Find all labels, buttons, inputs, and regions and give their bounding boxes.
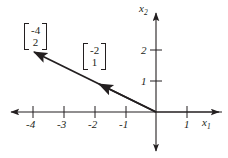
x-axis-label-subscript: 1 (207, 122, 211, 131)
vector-long-top-entry: -4 (31, 24, 40, 36)
x-tick-label--2: -2 (88, 119, 97, 130)
bracket-right-long (42, 23, 47, 50)
vector-label-long: -4 2 (24, 23, 47, 50)
x-tick-label--1: -1 (119, 119, 128, 130)
vector-short-bottom-entry: 1 (92, 56, 98, 68)
y-tick-label-1: 1 (141, 76, 147, 87)
vector-figure: -4 -3 -2 -1 1 2 1 x1 x2 -4 2 -2 1 (0, 0, 228, 158)
x-tick-label--4: -4 (26, 119, 35, 130)
vector-entries-long: -4 2 (29, 23, 42, 50)
bracket-right-short (101, 43, 106, 70)
vector-label-short: -2 1 (83, 43, 106, 70)
y-axis-label-subscript: 2 (144, 8, 148, 17)
x-axis (11, 106, 222, 118)
vector-short-top-entry: -2 (90, 44, 99, 56)
y-tick-label-2: 2 (141, 45, 147, 56)
vector-long-bottom-entry: 2 (33, 36, 39, 48)
vector-arrow-short (99, 84, 156, 112)
y-axis (150, 13, 162, 151)
x-tick-label-1: 1 (184, 119, 190, 130)
vector-entries-short: -2 1 (88, 43, 101, 70)
x-tick-label--3: -3 (57, 119, 66, 130)
x-axis-label: x1 (202, 117, 211, 131)
y-axis-label: x2 (139, 3, 148, 17)
